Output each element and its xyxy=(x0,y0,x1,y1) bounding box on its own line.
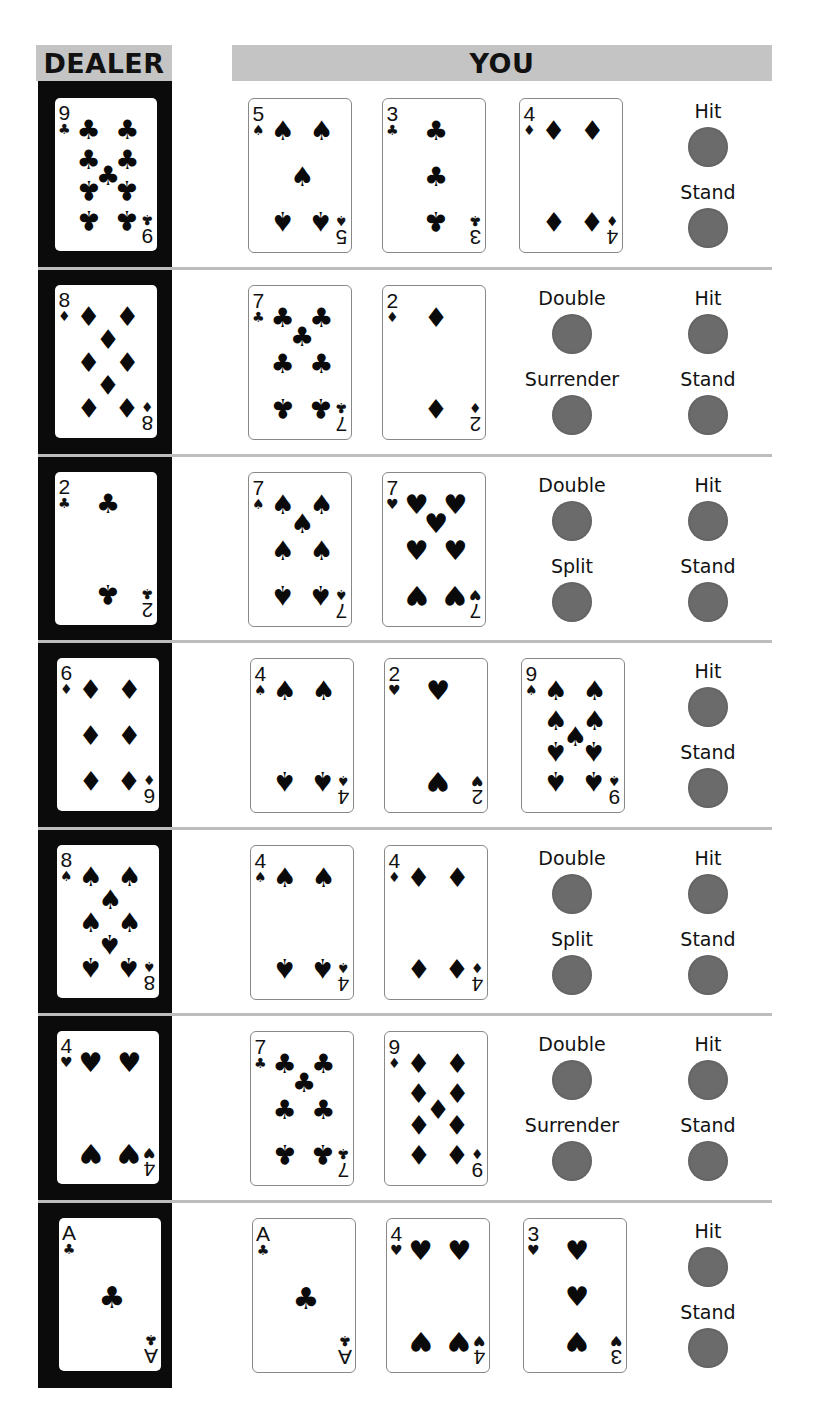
card-rank: 3 xyxy=(527,1223,539,1244)
hit-button[interactable] xyxy=(688,1060,728,1100)
card-index-top: 5♠ xyxy=(252,103,265,137)
card-rank: 7 xyxy=(336,414,348,435)
diamond-pip-icon: ♦ xyxy=(580,208,604,235)
surrender-button[interactable] xyxy=(552,1141,592,1181)
stand-button[interactable] xyxy=(688,582,728,622)
row-separator xyxy=(38,1013,772,1016)
card-index-bottom: 9♣ xyxy=(141,213,154,247)
card-index-bottom: 3♣ xyxy=(469,214,482,248)
stand-button[interactable] xyxy=(688,395,728,435)
spade-icon: ♠ xyxy=(254,683,267,697)
action-column-right: HitStand xyxy=(648,98,768,260)
stand-button[interactable] xyxy=(688,1328,728,1368)
card-rank: 9 xyxy=(142,226,154,247)
card-rank: 7 xyxy=(252,477,264,498)
card-rank: 7 xyxy=(254,1036,266,1057)
card-rank: 4 xyxy=(390,1223,402,1244)
spade-pip-icon: ♠ xyxy=(290,162,314,189)
diamond-pip-icon: ♦ xyxy=(445,1049,469,1076)
heart-icon: ♥ xyxy=(473,1334,486,1348)
hit-button[interactable] xyxy=(688,501,728,541)
diamond-pip-icon: ♦ xyxy=(117,767,141,794)
action-column-left: DoubleSplit xyxy=(512,472,632,634)
card-index-bottom: 5♠ xyxy=(335,214,348,248)
row-separator xyxy=(38,454,772,457)
card-rank: 2 xyxy=(58,476,70,497)
club-pip-icon: ♣ xyxy=(273,1095,297,1122)
club-icon: ♣ xyxy=(335,401,348,415)
heart-pip-icon: ♥ xyxy=(79,1140,103,1167)
stand-button[interactable] xyxy=(688,768,728,808)
hit-button[interactable] xyxy=(688,314,728,354)
split-button[interactable] xyxy=(552,582,592,622)
card-index-top: 4♦ xyxy=(523,103,536,137)
card-index-bottom: 7♥ xyxy=(469,588,482,622)
card-rank: 7 xyxy=(338,1160,350,1181)
double-button[interactable] xyxy=(552,874,592,914)
diamond-icon: ♦ xyxy=(388,870,401,884)
dealer-card-4-of-hearts: 4♥4♥♥♥♥♥ xyxy=(57,1031,159,1184)
card-index-top: 9♦ xyxy=(388,1036,401,1070)
heart-pip-icon: ♥ xyxy=(565,1282,589,1309)
hit-button[interactable] xyxy=(688,127,728,167)
row-separator xyxy=(38,640,772,643)
player-card-3-of-clubs: 3♣3♣♣♣♣ xyxy=(382,98,486,253)
diamond-icon: ♦ xyxy=(471,1147,484,1161)
heart-pip-icon: ♥ xyxy=(443,536,467,563)
spade-pip-icon: ♠ xyxy=(544,676,568,703)
dealer-header: DEALER xyxy=(36,45,172,81)
double-button[interactable] xyxy=(552,501,592,541)
club-icon: ♣ xyxy=(257,1243,270,1257)
card-index-bottom: 6♦ xyxy=(143,773,156,807)
diamond-pip-icon: ♦ xyxy=(542,116,566,143)
diamond-icon: ♦ xyxy=(386,310,399,324)
diamond-pip-icon: ♦ xyxy=(79,675,103,702)
card-index-bottom: 4♦ xyxy=(471,961,484,995)
action-column-left: DoubleSurrender xyxy=(512,285,632,447)
card-index-top: A♣ xyxy=(62,1222,76,1256)
stand-button[interactable] xyxy=(688,1141,728,1181)
card-rank: 9 xyxy=(472,1160,484,1181)
club-pip-icon: ♣ xyxy=(99,1283,126,1313)
double-button[interactable] xyxy=(552,314,592,354)
club-pip-icon: ♣ xyxy=(311,1141,335,1168)
diamond-pip-icon: ♦ xyxy=(580,116,604,143)
spade-pip-icon: ♠ xyxy=(273,676,297,703)
split-button[interactable] xyxy=(552,955,592,995)
player-card-4-of-diamonds: 4♦4♦♦♦♦♦ xyxy=(384,845,488,1000)
spade-pip-icon: ♠ xyxy=(271,536,295,563)
hit-label: Hit xyxy=(694,285,721,311)
club-pip-icon: ♣ xyxy=(424,162,448,189)
diamond-pip-icon: ♦ xyxy=(445,955,469,982)
action-column-right: HitStand xyxy=(648,285,768,447)
double-button[interactable] xyxy=(552,1060,592,1100)
hit-button[interactable] xyxy=(688,874,728,914)
card-rank: 4 xyxy=(338,974,350,995)
stand-button[interactable] xyxy=(688,208,728,248)
hit-button[interactable] xyxy=(688,687,728,727)
card-rank: 9 xyxy=(609,787,621,808)
hit-label: Hit xyxy=(694,472,721,498)
spade-icon: ♠ xyxy=(254,870,267,884)
heart-pip-icon: ♥ xyxy=(443,582,467,609)
card-rank: A xyxy=(144,1346,158,1367)
action-column-right: HitStand xyxy=(648,845,768,1007)
diamond-pip-icon: ♦ xyxy=(407,955,431,982)
club-icon: ♣ xyxy=(58,122,71,136)
spade-pip-icon: ♠ xyxy=(311,955,335,982)
row-separator xyxy=(38,267,772,270)
card-index-bottom: 9♠ xyxy=(608,774,621,808)
spade-pip-icon: ♠ xyxy=(271,208,295,235)
card-rank: 9 xyxy=(525,663,537,684)
surrender-button[interactable] xyxy=(552,395,592,435)
card-index-top: 4♠ xyxy=(254,663,267,697)
spade-pip-icon: ♠ xyxy=(311,863,335,890)
hit-label: Hit xyxy=(694,658,721,684)
stand-button[interactable] xyxy=(688,955,728,995)
heart-pip-icon: ♥ xyxy=(405,536,429,563)
heart-icon: ♥ xyxy=(471,774,484,788)
double-label: Double xyxy=(538,472,605,498)
hit-button[interactable] xyxy=(688,1247,728,1287)
club-icon: ♣ xyxy=(386,123,399,137)
spade-icon: ♠ xyxy=(252,497,265,511)
